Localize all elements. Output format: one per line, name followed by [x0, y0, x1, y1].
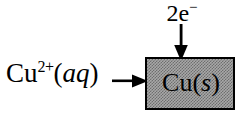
- reactant-label: Cu2+(aq): [6, 60, 99, 87]
- reactant-charge-superscript: 2+: [38, 58, 54, 75]
- product-label: Cu(s): [162, 70, 220, 96]
- chemistry-reduction-diagram: Cu2+(aq) 2e− Cu(s): [0, 0, 249, 115]
- electron-symbol: e: [178, 0, 189, 26]
- product-species: Cu: [162, 68, 192, 97]
- reactant-state-open-paren: (: [54, 58, 63, 88]
- reactant-species: Cu: [6, 58, 38, 88]
- reactant-state-label: aq: [63, 58, 90, 88]
- horizontal-arrow-right-icon: [112, 73, 148, 89]
- product-state-close-paren: ): [211, 68, 220, 97]
- product-state-label: s: [201, 68, 211, 97]
- reactant-state-close-paren: ): [90, 58, 99, 88]
- electron-count: 2: [166, 0, 178, 26]
- product-state-open-paren: (: [192, 68, 201, 97]
- electron-label: 2e−: [152, 1, 212, 25]
- electron-charge-superscript: −: [189, 0, 197, 15]
- vertical-arrow-down-icon: [171, 24, 191, 61]
- product-box: Cu(s): [145, 57, 235, 110]
